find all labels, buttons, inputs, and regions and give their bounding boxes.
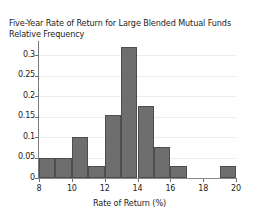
y-tick-label: 0 xyxy=(1,173,35,182)
x-tick-mark xyxy=(72,179,73,182)
histogram-bar xyxy=(105,115,121,178)
x-tick-mark xyxy=(203,179,204,182)
histogram-bar xyxy=(170,166,186,178)
histogram-bar xyxy=(138,106,154,178)
y-tick-label-wrap: 0 xyxy=(0,173,35,184)
x-axis-label: Rate of Return (%) xyxy=(0,198,259,208)
chart-title: Five-Year Rate of Return for Large Blend… xyxy=(9,18,231,29)
plot-area xyxy=(39,41,236,178)
x-tick-label: 18 xyxy=(192,184,214,193)
histogram-bar xyxy=(154,147,170,178)
y-tick-label: 0.3 xyxy=(1,50,35,59)
y-tick-label-wrap: 0.05 xyxy=(0,152,35,163)
gridline xyxy=(39,96,236,97)
y-tick-label-wrap: 0.2 xyxy=(0,91,35,102)
x-tick-mark xyxy=(105,179,106,182)
y-tick-mark xyxy=(35,55,39,56)
y-tick-mark xyxy=(35,117,39,118)
y-tick-label: 0.15 xyxy=(1,111,35,120)
x-tick-mark xyxy=(39,179,40,182)
histogram-bar xyxy=(39,158,55,178)
x-tick-mark xyxy=(138,179,139,182)
x-tick-mark xyxy=(236,179,237,182)
x-tick-mark xyxy=(170,179,171,182)
x-tick-label: 8 xyxy=(28,184,50,193)
histogram-bar xyxy=(55,158,71,178)
y-tick-label-wrap: 0.1 xyxy=(0,132,35,143)
y-tick-mark xyxy=(35,76,39,77)
x-tick-label: 12 xyxy=(94,184,116,193)
x-tick-label: 10 xyxy=(61,184,83,193)
histogram-bar xyxy=(220,166,236,178)
y-axis-label: Relative Frequency xyxy=(9,29,84,40)
y-tick-label: 0.05 xyxy=(1,152,35,161)
y-tick-label-wrap: 0.25 xyxy=(0,70,35,81)
histogram-bar xyxy=(121,47,137,178)
x-tick-label: 16 xyxy=(159,184,181,193)
y-tick-label: 0.25 xyxy=(1,70,35,79)
y-tick-mark xyxy=(35,158,39,159)
y-tick-label-wrap: 0.15 xyxy=(0,111,35,122)
y-tick-label: 0.1 xyxy=(1,132,35,141)
gridline xyxy=(39,55,236,56)
y-tick-label-wrap: 0.3 xyxy=(0,50,35,61)
histogram-figure: Five-Year Rate of Return for Large Blend… xyxy=(0,0,259,213)
y-tick-label: 0.2 xyxy=(1,91,35,100)
y-tick-mark xyxy=(35,137,39,138)
histogram-bar xyxy=(72,137,88,178)
histogram-bar xyxy=(88,166,104,178)
x-tick-label: 20 xyxy=(225,184,247,193)
y-tick-mark xyxy=(35,96,39,97)
x-tick-label: 14 xyxy=(127,184,149,193)
gridline xyxy=(39,76,236,77)
